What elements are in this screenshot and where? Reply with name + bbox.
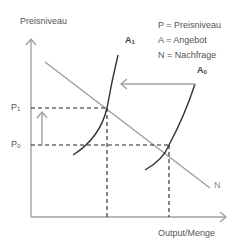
x-axis-label: Output/Menge [158,229,215,238]
tick-p1: P1 [11,103,20,112]
y-axis-label: Preisniveau [20,17,67,26]
legend-item-p: P = Preisniveau [158,18,221,33]
supply-curve-a1 [73,55,118,155]
price-rise-arrow-up-icon [37,112,47,145]
y-axis [26,39,36,217]
demand-curve-n [45,62,210,188]
legend: P = Preisniveau A = Angebot N = Nachfrag… [158,18,221,63]
tick-p0: P0 [11,140,20,149]
dashed-guides [31,108,169,217]
curve-label-a1: A1 [125,36,135,45]
shift-arrow-left-icon [121,79,195,89]
legend-item-a: A = Angebot [158,33,221,48]
curve-label-a0: A0 [197,66,207,75]
curve-label-n: N [214,181,221,190]
legend-item-n: N = Nachfrage [158,48,221,63]
x-axis [31,212,226,222]
